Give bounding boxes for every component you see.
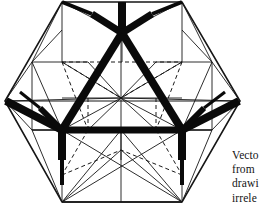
bold-apex-spoke-left — [92, 14, 122, 33]
bold-junction-apex — [92, 2, 152, 33]
bold-side-right — [122, 33, 182, 130]
edge-tl-to-innerL — [32, 2, 62, 62]
edge-innerL-to-left — [5, 62, 32, 101]
caption-line-3: drawi — [232, 176, 268, 190]
caption-line-1: Vecto — [232, 148, 268, 162]
caption-line-2: from — [232, 162, 268, 176]
bold-apex-spoke-right — [122, 14, 152, 33]
bold-inscribed-triangle — [6, 2, 239, 185]
edge-br-to-centre-bottom — [121, 150, 182, 202]
hidden-edges-dashed — [62, 62, 182, 175]
edge-bl-fan-mid — [62, 130, 121, 202]
edge-br-fan-mid — [121, 130, 182, 202]
edge-tr-to-innerR — [182, 2, 212, 62]
bold-side-left — [62, 33, 122, 130]
bold-chord-top-right — [152, 2, 182, 14]
bold-chord-top-left — [62, 2, 92, 14]
centre-spokes — [5, 33, 240, 160]
figure-caption: Vecto from drawi irrele — [232, 148, 268, 205]
caption-line-4: irrele — [232, 191, 268, 205]
dashed-bottom-left-fan — [62, 150, 121, 175]
vector-equilibrium-figure — [0, 0, 268, 209]
edge-innerR-to-right — [212, 62, 240, 101]
edge-innerL-to-bl — [32, 130, 62, 202]
edge-innerR-to-br — [182, 130, 212, 202]
figure-page: Vecto from drawi irrele — [0, 0, 268, 209]
edge-bl-to-centre-bottom — [62, 150, 121, 202]
spoke-ssw — [88, 98, 121, 130]
